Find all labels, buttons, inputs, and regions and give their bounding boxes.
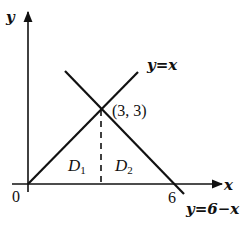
- line-label-y-equals-x: y=x: [146, 56, 178, 74]
- region-d1-label: D1: [67, 156, 86, 176]
- origin-label: 0: [12, 188, 20, 205]
- region-d2-label: D2: [114, 156, 133, 176]
- line-label-y-equals-6-minus-x: y=6−x: [185, 200, 240, 218]
- x-tick-6-label: 6: [168, 189, 176, 206]
- intersection-label: (3, 3): [112, 102, 147, 120]
- x-axis-label: x: [223, 176, 234, 194]
- diagram-canvas: y x 0 6 y=x y=6−x (3, 3) D1 D2: [0, 0, 248, 247]
- y-axis-label: y: [5, 8, 16, 26]
